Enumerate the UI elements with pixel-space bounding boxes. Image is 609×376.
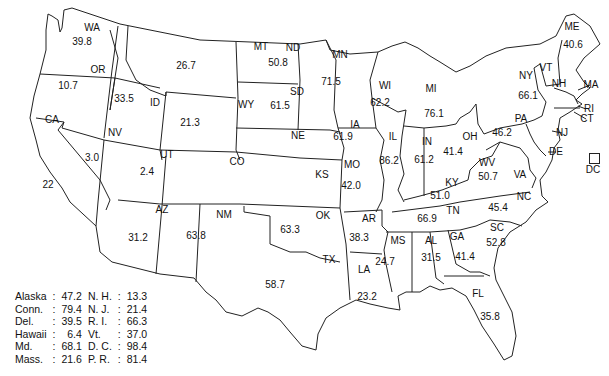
legend-right-value: 21.4 <box>124 303 150 316</box>
legend-sep: : <box>115 328 124 341</box>
state-value-ca: 22 <box>42 180 53 190</box>
state-value-mi: 76.1 <box>424 109 443 119</box>
state-value-id: 33.5 <box>114 94 133 104</box>
state-abbr-ga: GA <box>450 232 464 242</box>
state-abbr-co: CO <box>230 157 245 167</box>
legend-sep: : <box>115 303 124 316</box>
state-value-ar: 38.3 <box>349 233 368 243</box>
state-abbr-ut: UT <box>160 150 173 160</box>
legend-left-name: Mass. <box>12 353 50 366</box>
state-abbr-nc: NC <box>517 192 531 202</box>
dc-marker-box <box>589 153 600 164</box>
legend-row: Conn.:79.4N. J.:21.4 <box>12 303 150 316</box>
state-value-wv: 50.7 <box>478 172 497 182</box>
state-abbr-il: IL <box>389 132 397 142</box>
legend-table: Alaska:47.2N. H.:13.3Conn.:79.4N. J.:21.… <box>12 290 150 365</box>
legend-right-name: N. H. <box>85 290 115 303</box>
state-value-mt: 26.7 <box>176 61 195 71</box>
state-abbr-vt: VT <box>540 63 553 73</box>
legend-row: Hawaii:6.4Vt.:37.0 <box>12 328 150 341</box>
legend-sep: : <box>50 328 59 341</box>
legend-right-value: 98.4 <box>124 340 150 353</box>
state-value-or: 10.7 <box>58 81 77 91</box>
state-value-ky: 51.0 <box>430 191 449 201</box>
legend-sep: : <box>115 353 124 366</box>
state-abbr-mi: MI <box>425 84 436 94</box>
legend-left-value: 68.1 <box>58 340 84 353</box>
legend-left-value: 79.4 <box>58 303 84 316</box>
state-value-in: 61.2 <box>414 155 433 165</box>
state-value-al: 31.5 <box>421 253 440 263</box>
state-value-tn: 66.9 <box>417 214 436 224</box>
legend-left-name: Conn. <box>12 303 50 316</box>
state-abbr-tn: TN <box>446 206 459 216</box>
state-value-ut: 2.4 <box>140 167 154 177</box>
state-value-nd: 50.8 <box>268 58 287 68</box>
state-abbr-nh: NH <box>552 79 566 89</box>
state-abbr-va: VA <box>514 170 527 180</box>
state-abbr-ca: CA <box>45 115 59 125</box>
legend-left-name: Hawaii <box>12 328 50 341</box>
state-value-tx: 58.7 <box>265 280 284 290</box>
state-abbr-al: AL <box>425 236 437 246</box>
state-value-ok: 63.3 <box>280 225 299 235</box>
state-abbr-sd: SD <box>290 87 304 97</box>
state-abbr-or: OR <box>91 65 106 75</box>
legend-left-value: 47.2 <box>58 290 84 303</box>
state-value-ny: 66.1 <box>518 91 537 101</box>
legend-right-name: P. R. <box>85 353 115 366</box>
state-abbr-dc: DC <box>586 165 600 175</box>
state-abbr-la: LA <box>358 265 370 275</box>
state-abbr-ne: NE <box>291 131 305 141</box>
legend-sep: : <box>115 290 124 303</box>
legend-left-name: Del. <box>12 315 50 328</box>
state-abbr-ok: OK <box>316 211 330 221</box>
state-value-oh: 41.4 <box>443 147 462 157</box>
state-abbr-nm: NM <box>216 210 232 220</box>
state-abbr-tx: TX <box>323 255 336 265</box>
state-value-sc: 52.8 <box>486 238 505 248</box>
state-value-nm: 63.8 <box>186 231 205 241</box>
state-abbr-wy: WY <box>238 100 254 110</box>
state-abbr-az: AZ <box>156 205 169 215</box>
state-value-ia: 61.9 <box>333 132 352 142</box>
legend-row: Alaska:47.2N. H.:13.3 <box>12 290 150 303</box>
state-abbr-ky: KY <box>445 178 458 188</box>
legend-right-value: 66.3 <box>124 315 150 328</box>
state-value-il: 86.2 <box>379 156 398 166</box>
state-abbr-ms: MS <box>391 236 406 246</box>
state-abbr-ks: KS <box>315 170 328 180</box>
state-value-wa: 39.8 <box>72 37 91 47</box>
state-abbr-ny: NY <box>519 71 533 81</box>
state-value-mo: 42.0 <box>341 181 360 191</box>
legend-row: Md.:68.1D. C.:98.4 <box>12 340 150 353</box>
state-abbr-ma: MA <box>584 80 599 90</box>
legend-sep: : <box>50 315 59 328</box>
state-abbr-oh: OH <box>463 132 478 142</box>
state-value-ms: 24.7 <box>375 257 394 267</box>
state-abbr-id: ID <box>150 98 160 108</box>
state-abbr-mn: MN <box>332 50 348 60</box>
state-value-nv: 3.0 <box>85 153 99 163</box>
state-value-nc: 45.4 <box>488 203 507 213</box>
state-abbr-ar: AR <box>362 214 376 224</box>
legend-right-value: 13.3 <box>124 290 150 303</box>
legend-left-name: Alaska <box>12 290 50 303</box>
state-abbr-nv: NV <box>108 128 122 138</box>
state-abbr-de: DE <box>549 147 563 157</box>
state-value-mn: 71.5 <box>321 77 340 87</box>
legend-small-states: Alaska:47.2N. H.:13.3Conn.:79.4N. J.:21.… <box>12 290 150 365</box>
legend-right-value: 81.4 <box>124 353 150 366</box>
legend-row: Mass.:21.6P. R.:81.4 <box>12 353 150 366</box>
state-abbr-ia: IA <box>350 120 359 130</box>
state-value-wi: 62.2 <box>370 98 389 108</box>
state-abbr-fl: FL <box>472 289 484 299</box>
legend-right-name: Vt. <box>85 328 115 341</box>
legend-sep: : <box>50 340 59 353</box>
state-abbr-sc: SC <box>490 223 504 233</box>
legend-left-value: 21.6 <box>58 353 84 366</box>
state-abbr-wv: WV <box>479 158 495 168</box>
state-abbr-nd: ND <box>286 43 300 53</box>
state-value-la: 23.2 <box>357 292 376 302</box>
legend-right-name: D. C. <box>85 340 115 353</box>
